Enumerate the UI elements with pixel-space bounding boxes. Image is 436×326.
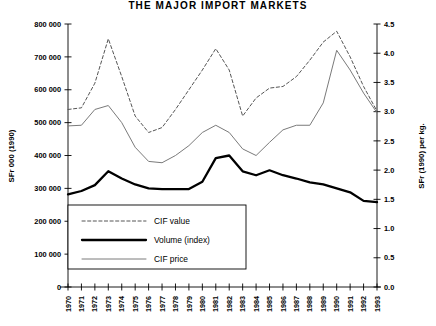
x-tick-label: 1974 xyxy=(117,296,126,312)
chart-legend: CIF valueVolume (index)CIF price xyxy=(68,205,246,269)
x-tick-label: 1987 xyxy=(292,296,301,312)
series-line-volume-index xyxy=(68,156,377,203)
import-markets-line-chart: THE MAJOR IMPORT MARKETS 0100 000200 000… xyxy=(0,0,436,326)
x-tick-label: 1985 xyxy=(265,296,274,312)
y-tick-label-left: 100 000 xyxy=(34,250,61,259)
y-axis-label-right: SFr (1990) per kg. xyxy=(417,123,426,188)
y-tick-label-left: 500 000 xyxy=(34,118,61,127)
x-tick-label: 1984 xyxy=(252,296,261,312)
legend-label-cif-value: CIF value xyxy=(154,216,190,226)
y-tick-label-right: 3.0 xyxy=(384,107,394,116)
y-tick-label-left: 300 000 xyxy=(34,184,61,193)
x-axis: 1970197119721973197419751976197719781979… xyxy=(60,284,382,313)
x-tick-label: 1972 xyxy=(90,296,99,312)
y-tick-label-right: 2.5 xyxy=(384,137,394,146)
right-axis: 0.00.51.01.52.02.53.03.54.04.5 xyxy=(374,20,395,292)
y-tick-label-left: 400 000 xyxy=(34,151,61,160)
chart-container: THE MAJOR IMPORT MARKETS 0100 000200 000… xyxy=(0,0,436,326)
x-tick-label: 1977 xyxy=(158,296,167,312)
chart-title: THE MAJOR IMPORT MARKETS xyxy=(128,0,307,11)
series-line-cif-price xyxy=(68,50,377,162)
x-tick-label: 1983 xyxy=(238,296,247,312)
y-tick-label-left: 600 000 xyxy=(34,85,61,94)
y-tick-label-right: 4.0 xyxy=(384,49,394,58)
x-tick-label: 1988 xyxy=(305,296,314,312)
x-tick-label: 1970 xyxy=(64,296,73,312)
x-tick-label: 1982 xyxy=(225,296,234,312)
y-tick-label-left: 200 000 xyxy=(34,217,61,226)
y-tick-label-left: 800 000 xyxy=(34,20,61,29)
x-tick-label: 1993 xyxy=(373,296,382,312)
x-tick-label: 1976 xyxy=(144,296,153,312)
y-tick-label-right: 0.0 xyxy=(384,283,394,292)
y-tick-label-left: 700 000 xyxy=(34,53,61,62)
x-tick-label: 1975 xyxy=(131,296,140,312)
y-tick-label-right: 2.0 xyxy=(384,166,394,175)
left-axis: 0100 000200 000300 000400 000500 000600 … xyxy=(34,20,71,292)
x-tick-label: 1990 xyxy=(332,296,341,312)
x-tick-label: 1992 xyxy=(359,296,368,312)
x-tick-label: 1989 xyxy=(319,296,328,312)
y-tick-label-right: 1.0 xyxy=(384,224,394,233)
y-tick-label-right: 1.5 xyxy=(384,195,394,204)
legend-label-cif-price: CIF price xyxy=(154,254,188,264)
legend-label-volume-index: Volume (index) xyxy=(154,235,210,245)
x-tick-label: 1973 xyxy=(104,296,113,312)
y-axis-label-left: SFr 000 (1990) xyxy=(7,129,16,182)
series-line-cif-value xyxy=(68,31,377,132)
x-tick-label: 1979 xyxy=(185,296,194,312)
x-tick-label: 1991 xyxy=(346,296,355,312)
y-tick-label-right: 0.5 xyxy=(384,253,394,262)
x-tick-label: 1978 xyxy=(171,296,180,312)
x-tick-label: 1980 xyxy=(198,296,207,312)
y-tick-label-right: 3.5 xyxy=(384,78,394,87)
x-tick-label: 1986 xyxy=(279,296,288,312)
x-tick-label: 1981 xyxy=(211,296,220,312)
data-series-group xyxy=(68,31,377,202)
y-tick-label-right: 4.5 xyxy=(384,20,394,29)
x-tick-label: 1971 xyxy=(77,296,86,312)
